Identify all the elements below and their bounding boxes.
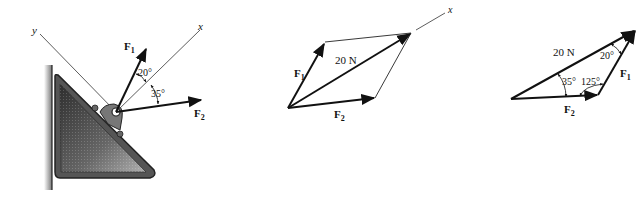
angle-label-20: 20° bbox=[138, 67, 152, 78]
wall-hatching bbox=[44, 65, 52, 190]
force-f2-arrow bbox=[511, 95, 597, 99]
force-f2-arrow bbox=[116, 100, 201, 112]
force-f2-label: F2 bbox=[564, 103, 575, 118]
y-axis-label: y bbox=[31, 24, 37, 36]
bolt-head bbox=[92, 105, 98, 111]
angle-label-left: 35° bbox=[562, 76, 576, 87]
x-axis bbox=[416, 13, 445, 30]
resultant-label: 20 N bbox=[553, 46, 575, 58]
x-axis-label: x bbox=[447, 4, 453, 15]
angle-label-35: 35° bbox=[151, 88, 165, 99]
force-f1-label: F1 bbox=[294, 67, 305, 82]
angle-label-top: 20° bbox=[600, 50, 614, 61]
parallelogram-figure: x F1 F2 20 N bbox=[288, 4, 453, 123]
angle-label-right: 125° bbox=[581, 76, 600, 87]
force-f1-arrow bbox=[116, 49, 146, 112]
resultant-arrow bbox=[288, 34, 410, 108]
resultant-label: 20 N bbox=[335, 54, 357, 66]
force-f2-label: F2 bbox=[334, 108, 345, 123]
force-triangle-figure: 20 N F1 F2 20° 35° 125° bbox=[511, 31, 635, 118]
force-f1-label: F1 bbox=[620, 67, 631, 82]
bolt-head bbox=[117, 131, 123, 137]
x-axis-label: x bbox=[197, 20, 203, 32]
force-f2-label: F2 bbox=[194, 107, 205, 122]
free-body-figure: y x F1 F2 20° 35° bbox=[31, 20, 205, 190]
parallelogram-side-right bbox=[375, 33, 411, 98]
force-f1-label: F1 bbox=[124, 40, 135, 55]
diagram-canvas: y x F1 F2 20° 35° x F bbox=[0, 0, 642, 205]
